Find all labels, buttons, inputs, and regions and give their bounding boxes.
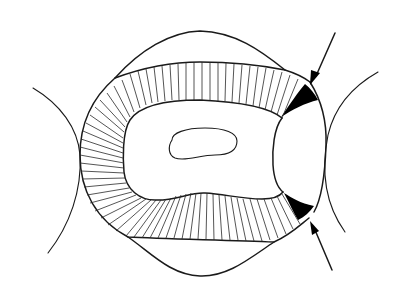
tooth-diagram <box>0 0 409 304</box>
upper-margin-gap <box>281 84 318 117</box>
enamel-outer-edge <box>80 62 310 242</box>
lower-arrowhead-icon <box>310 221 319 235</box>
enamel-inner-edge <box>123 100 283 200</box>
lower-arrow <box>310 221 332 270</box>
bottom-lobe-outline <box>128 237 274 276</box>
left-adjacent-tooth-outline <box>33 88 80 253</box>
right-adjacent-tooth-outline <box>325 72 378 232</box>
lower-margin-gap <box>284 193 314 220</box>
enamel-hatching <box>80 62 300 241</box>
upper-arrowhead-icon <box>310 70 320 85</box>
top-cusp-outline <box>115 31 285 78</box>
upper-arrow <box>310 33 335 85</box>
pulp-chamber <box>169 128 237 159</box>
diagram-canvas: Occlusal cross-section of a tooth betwee… <box>0 0 409 304</box>
